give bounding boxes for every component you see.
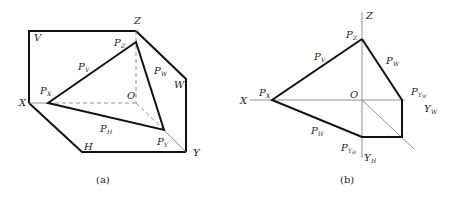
figure-a: V Z X W H Y O P Z P V P W P X P H P Y xyxy=(18,15,201,185)
label-yh: Y H xyxy=(364,152,377,164)
label-z: Z xyxy=(365,10,374,21)
svg-text:P: P xyxy=(258,87,266,98)
svg-text:P: P xyxy=(340,142,348,153)
svg-text:P: P xyxy=(385,55,393,66)
label-v: V xyxy=(34,32,43,43)
svg-text:P: P xyxy=(77,61,85,72)
label-pv: P V xyxy=(313,51,326,63)
label-ph: P H xyxy=(99,123,113,135)
svg-text:W: W xyxy=(431,108,438,115)
svg-text:V: V xyxy=(321,56,326,63)
svg-text:H: H xyxy=(370,157,377,164)
plane-p-traces xyxy=(48,42,164,130)
label-x: X xyxy=(239,95,248,106)
w-plane-outline xyxy=(136,31,186,152)
svg-text:H: H xyxy=(351,150,356,155)
label-pw: P W xyxy=(385,55,400,67)
label-w: W xyxy=(174,79,185,90)
label-h: H xyxy=(83,141,93,152)
label-py: P Y xyxy=(156,136,169,148)
label-o: O xyxy=(350,89,358,100)
label-px: P X xyxy=(258,87,271,99)
svg-text:H: H xyxy=(106,128,113,135)
label-y: Y xyxy=(193,147,201,158)
svg-text:H: H xyxy=(317,130,324,137)
caption-a: (a) xyxy=(96,174,110,185)
label-pz: P Z xyxy=(113,37,126,49)
label-pyh: P Y H xyxy=(340,142,356,155)
label-x: X xyxy=(18,97,27,108)
label-px: P X xyxy=(39,85,52,97)
label-z: Z xyxy=(133,15,142,26)
label-pv: P V xyxy=(77,61,90,73)
svg-text:X: X xyxy=(46,90,52,97)
label-ph: P H xyxy=(310,125,324,137)
figure-b: Z X O Y W Y H P Z P V P W P X P H xyxy=(239,10,438,185)
label-pz: P Z xyxy=(345,29,358,41)
svg-text:P: P xyxy=(113,37,121,48)
svg-text:P: P xyxy=(156,136,164,147)
svg-text:P: P xyxy=(310,125,318,136)
label-pw: P W xyxy=(153,65,168,77)
svg-text:P: P xyxy=(410,86,418,97)
label-pyw: P Y W xyxy=(410,86,427,99)
svg-text:P: P xyxy=(39,85,47,96)
svg-text:Z: Z xyxy=(120,42,126,49)
label-o: O xyxy=(127,90,135,101)
caption-b: (b) xyxy=(340,174,354,185)
svg-text:W: W xyxy=(393,60,400,67)
svg-text:W: W xyxy=(161,70,168,77)
svg-text:V: V xyxy=(85,66,90,73)
45-degree-line xyxy=(362,100,414,149)
svg-text:Z: Z xyxy=(352,34,358,41)
svg-text:P: P xyxy=(99,123,107,134)
svg-text:P: P xyxy=(153,65,161,76)
svg-text:P: P xyxy=(345,29,353,40)
svg-text:X: X xyxy=(265,92,271,99)
diagram-canvas: V Z X W H Y O P Z P V P W P X P H P Y xyxy=(0,0,455,201)
svg-text:Y: Y xyxy=(164,141,169,148)
svg-text:W: W xyxy=(422,94,427,99)
svg-text:P: P xyxy=(313,51,321,62)
label-yw: Y W xyxy=(424,103,438,115)
plane-p-traces xyxy=(272,39,402,137)
